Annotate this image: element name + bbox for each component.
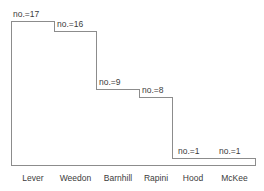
bar-value-label-hood: no.=1 (178, 146, 200, 156)
bar-value-label-rapini: no.=8 (142, 85, 164, 95)
x-tick-label-weedon: Weedon (54, 173, 97, 183)
x-tick-label-rapini: Rapini (139, 173, 173, 183)
bar-weedon (54, 31, 97, 166)
x-tick-label-barnhill: Barnhill (96, 173, 140, 183)
x-tick-label-mckee: McKee (213, 173, 256, 183)
bar-value-label-lever: no.=17 (13, 9, 39, 19)
bar-value-label-weedon: no.=16 (57, 19, 83, 29)
bar-value-label-mckee: no.=1 (219, 146, 241, 156)
x-tick-label-hood: Hood (172, 173, 214, 183)
plot-area: no.=17 no.=16 no.=9 no.=8 no.=1 no.=1 Le… (0, 0, 264, 191)
bar-chart: no.=17 no.=16 no.=9 no.=8 no.=1 no.=1 Le… (0, 0, 264, 191)
bar-lever (11, 21, 55, 166)
bar-value-label-barnhill: no.=9 (99, 77, 121, 87)
x-tick-label-lever: Lever (11, 173, 55, 183)
bar-barnhill (96, 89, 140, 166)
bar-rapini (139, 97, 173, 166)
x-axis-baseline (11, 165, 256, 166)
